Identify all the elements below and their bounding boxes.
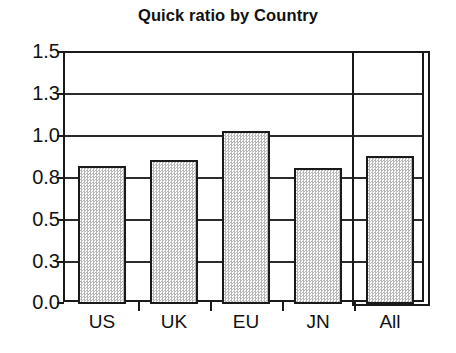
y-tick-label-1-3: 1.3 [4, 83, 60, 103]
y-tick-label-1-5: 1.5 [4, 41, 60, 61]
x-tick-mark-2 [210, 302, 212, 311]
x-tick-mark-1 [138, 302, 140, 311]
bar-jn[interactable] [294, 168, 342, 304]
x-label-jn: JN [294, 312, 342, 331]
bar-us[interactable] [78, 166, 126, 304]
chart-title: Quick ratio by Country [0, 6, 456, 25]
y-axis: 1.5 1.3 1.0 0.8 0.5 0.3 0.0 [0, 0, 60, 353]
gridline-1-3 [65, 93, 422, 95]
y-tick-label-0-8: 0.8 [4, 167, 60, 187]
y-tick-label-1-0: 1.0 [4, 125, 60, 145]
y-tick-label-0-5: 0.5 [4, 209, 60, 229]
x-tick-mark-4 [354, 302, 356, 311]
x-label-all: All [366, 312, 414, 331]
bar-all[interactable] [366, 156, 414, 304]
bar-uk[interactable] [150, 160, 198, 304]
y-tick-label-0-0: 0.0 [4, 292, 60, 312]
x-tick-mark-3 [282, 302, 284, 311]
x-label-us: US [78, 312, 126, 331]
chart-container: Quick ratio by Country 1.5 1.3 1.0 0.8 0… [0, 0, 456, 353]
y-tick-label-0-3: 0.3 [4, 251, 60, 271]
bar-eu[interactable] [222, 131, 270, 304]
y-tick-mark-0-0 [57, 302, 64, 304]
x-label-eu: EU [222, 312, 270, 331]
x-label-uk: UK [150, 312, 198, 331]
